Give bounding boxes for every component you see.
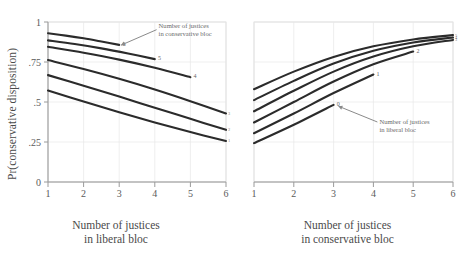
svg-text:.75: .75: [29, 57, 42, 68]
plot-svg-right: 123456543210Number of justicesin liberal…: [232, 0, 463, 215]
svg-text:2: 2: [81, 188, 86, 199]
x-axis-label-left-line1: Number of justices: [0, 218, 232, 232]
svg-text:1: 1: [46, 188, 51, 199]
svg-text:6: 6: [224, 188, 229, 199]
series-endpoint-label-4: 4: [194, 73, 197, 79]
series-endpoint-label-3: 3: [455, 38, 457, 42]
svg-text:1: 1: [36, 17, 41, 28]
svg-text:2: 2: [291, 188, 296, 199]
x-axis-label-right-line2: in conservative bloc: [232, 232, 463, 246]
svg-text:5: 5: [411, 188, 416, 199]
annotation-line2: in liberal bloc: [379, 126, 416, 133]
series-endpoint-label-1: 1: [377, 71, 380, 77]
series-endpoint-label-1: 1: [228, 139, 230, 143]
annotation-line1: Number of justices: [159, 22, 210, 29]
series-endpoint-label-2: 2: [228, 128, 230, 132]
svg-text:3: 3: [117, 188, 122, 199]
x-axis-label-left-line2: in liberal bloc: [0, 232, 232, 246]
series-endpoint-label-5: 5: [158, 55, 161, 61]
x-axis-label-left: Number of justices in liberal bloc: [0, 218, 232, 246]
svg-text:5: 5: [188, 188, 193, 199]
svg-text:1: 1: [252, 188, 257, 199]
svg-text:0: 0: [36, 177, 41, 188]
series-endpoint-label-2: 2: [416, 48, 419, 54]
series-endpoint-label-3: 3: [228, 112, 230, 116]
svg-text:3: 3: [331, 188, 336, 199]
plot-svg-left: 0.25.5.751123456654321Number of justices…: [0, 0, 232, 215]
x-axis-label-right: Number of justices in conservative bloc: [232, 218, 463, 246]
annotation-line1: Number of justices: [379, 118, 430, 125]
svg-text:4: 4: [371, 188, 376, 199]
svg-text:.25: .25: [29, 137, 42, 148]
panel-left: Pr(conservative disposition) 0.25.5.7511…: [0, 0, 232, 260]
plot-area-right: 123456543210Number of justicesin liberal…: [232, 0, 463, 215]
x-axis-label-right-line1: Number of justices: [232, 218, 463, 232]
panel-right: 123456543210Number of justicesin liberal…: [232, 0, 463, 260]
svg-text:6: 6: [451, 188, 456, 199]
figure-root: Pr(conservative disposition) 0.25.5.7511…: [0, 0, 463, 260]
svg-text:.5: .5: [34, 97, 42, 108]
annotation-line2: in conservative bloc: [159, 30, 212, 37]
svg-text:4: 4: [152, 188, 157, 199]
plot-area-left: 0.25.5.751123456654321Number of justices…: [0, 0, 232, 215]
